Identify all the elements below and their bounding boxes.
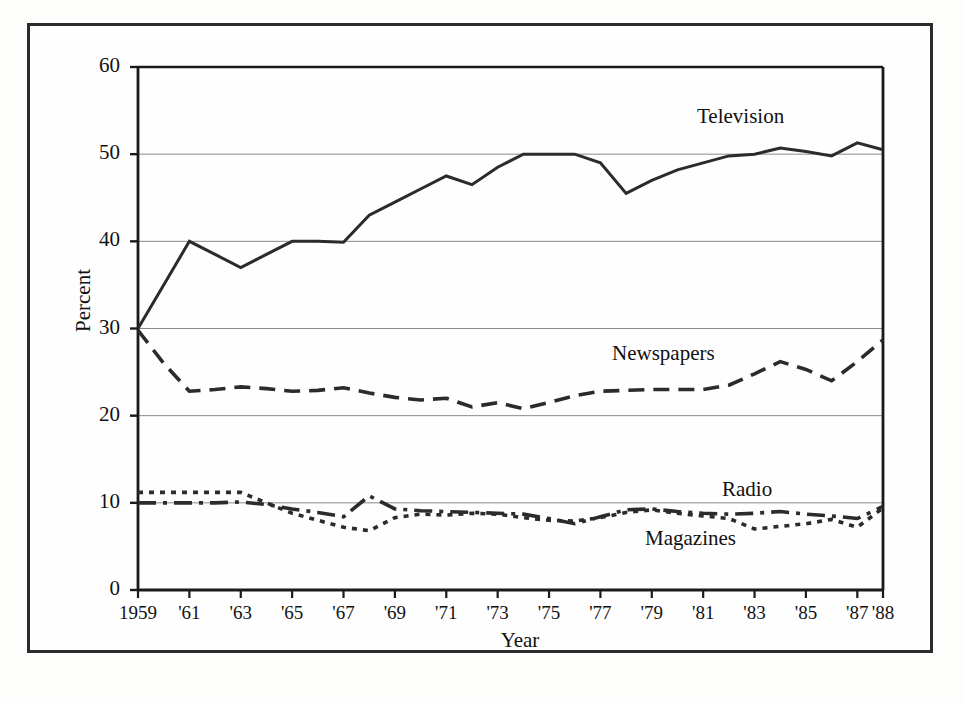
series-label-television: Television <box>697 104 784 129</box>
x-axis-title: Year <box>440 628 600 653</box>
y-tick-label: 20 <box>80 402 120 427</box>
axis-ticks <box>130 67 883 598</box>
series-line-television <box>138 143 883 329</box>
series-label-radio: Radio <box>722 477 772 502</box>
y-tick-label: 10 <box>80 489 120 514</box>
x-tick-label: '88 <box>853 602 913 624</box>
data-series-group <box>138 143 883 531</box>
y-tick-label: 0 <box>80 576 120 601</box>
y-tick-label: 50 <box>80 140 120 165</box>
gridlines <box>138 67 883 503</box>
series-line-newspapers <box>138 330 883 408</box>
series-label-magazines: Magazines <box>645 526 736 551</box>
y-axis-title: Percent <box>71 251 96 351</box>
line-chart-plot <box>0 0 965 703</box>
y-tick-label: 60 <box>80 53 120 78</box>
figure-container: 0102030405060 1959'61'63'65'67'69'71'73'… <box>0 0 965 703</box>
y-tick-label: 40 <box>80 227 120 252</box>
series-label-newspapers: Newspapers <box>612 341 715 366</box>
